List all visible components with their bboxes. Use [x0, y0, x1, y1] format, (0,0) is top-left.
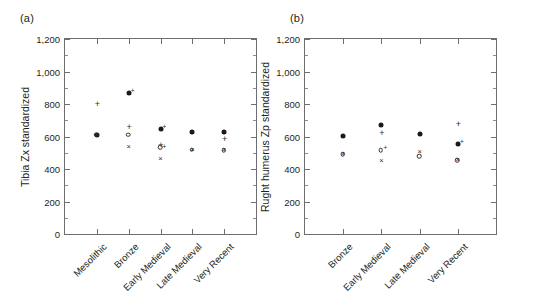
y-axis-tick — [305, 169, 310, 170]
x-axis-tick — [381, 39, 382, 44]
y-axis-minor-tick — [305, 153, 308, 154]
y-axis-tick-label: 0 — [55, 229, 60, 240]
y-axis-minor-tick — [253, 120, 256, 121]
x-axis-tick — [343, 39, 344, 44]
x-axis-tick-label: Bronze — [326, 241, 355, 270]
y-axis-tick — [65, 72, 70, 73]
y-axis-tick — [251, 169, 256, 170]
y-axis-tick-label: 600 — [44, 131, 60, 142]
y-axis-tick-label: 1,000 — [276, 66, 300, 77]
y-axis-tick — [491, 169, 496, 170]
y-axis-minor-tick — [305, 218, 308, 219]
y-axis-tick — [305, 72, 310, 73]
y-axis-tick — [305, 104, 310, 105]
y-axis-minor-tick — [305, 88, 308, 89]
data-point-open-circle — [126, 133, 131, 138]
data-point-plus: + — [383, 145, 387, 152]
x-axis-tick — [129, 39, 130, 44]
y-axis-tick — [491, 72, 496, 73]
data-point-plus: + — [460, 139, 464, 146]
x-axis-tick — [343, 229, 344, 234]
panel-a-label: (a) — [20, 12, 34, 24]
y-axis-tick-label: 600 — [284, 131, 300, 142]
data-point-plus: + — [163, 124, 167, 131]
y-axis-tick-label: 1,000 — [36, 66, 60, 77]
data-point-plus: + — [127, 122, 132, 131]
data-point-plus: + — [163, 144, 167, 151]
data-point-open-circle — [158, 145, 163, 150]
x-axis-tick — [161, 229, 162, 234]
y-axis-minor-tick — [65, 153, 68, 154]
y-axis-tick — [251, 137, 256, 138]
y-axis-tick — [65, 104, 70, 105]
y-axis-minor-tick — [253, 88, 256, 89]
panel-b-label: (b) — [290, 12, 304, 24]
x-axis-tick — [97, 229, 98, 234]
data-point-plus: + — [95, 100, 100, 109]
y-axis-tick-label: 800 — [44, 99, 60, 110]
x-axis-tick — [458, 39, 459, 44]
x-axis-tick — [129, 229, 130, 234]
data-point-cross: × — [158, 156, 162, 164]
x-axis-tick-label: Mesolithic — [71, 241, 109, 279]
y-axis-tick-label: 200 — [44, 196, 60, 207]
x-axis-tick — [192, 229, 193, 234]
y-axis-minor-tick — [253, 55, 256, 56]
y-axis-minor-tick — [493, 88, 496, 89]
y-axis-tick-label: 400 — [284, 164, 300, 175]
data-point-plus: + — [456, 119, 461, 128]
y-axis-minor-tick — [493, 55, 496, 56]
y-axis-minor-tick — [253, 218, 256, 219]
y-axis-tick — [251, 202, 256, 203]
y-axis-minor-tick — [493, 218, 496, 219]
data-point-open-circle — [379, 148, 384, 153]
y-axis-tick-label: 400 — [44, 164, 60, 175]
y-axis-minor-tick — [305, 55, 308, 56]
y-axis-minor-tick — [493, 120, 496, 121]
y-axis-tick — [251, 234, 256, 235]
x-axis-tick — [420, 39, 421, 44]
data-point-filled-circle — [190, 130, 195, 135]
y-axis-tick — [491, 234, 496, 235]
data-point-filled-circle — [417, 132, 422, 137]
y-axis-tick-label: 200 — [284, 196, 300, 207]
y-axis-minor-tick — [305, 120, 308, 121]
panel-a: (a) Tibia Zx standardized 02004006008001… — [0, 0, 270, 308]
data-point-plus: + — [222, 134, 227, 143]
x-axis-tick — [458, 229, 459, 234]
y-axis-tick-label: 1,200 — [36, 34, 60, 45]
x-axis-tick — [161, 39, 162, 44]
panel-a-plot-area: Tibia Zx standardized 02004006008001,000… — [64, 38, 257, 235]
data-point-cross: × — [126, 143, 130, 151]
y-axis-tick — [491, 137, 496, 138]
data-point-plus: + — [379, 129, 384, 138]
y-axis-minor-tick — [65, 185, 68, 186]
y-axis-tick — [491, 104, 496, 105]
y-axis-minor-tick — [493, 185, 496, 186]
x-axis-tick — [420, 229, 421, 234]
y-axis-tick-label: 1,200 — [276, 34, 300, 45]
y-axis-minor-tick — [65, 218, 68, 219]
y-axis-tick — [305, 202, 310, 203]
y-axis-minor-tick — [493, 153, 496, 154]
x-axis-tick — [192, 39, 193, 44]
x-axis-tick-label: Bronze — [111, 241, 140, 270]
x-axis-tick — [224, 229, 225, 234]
figure-scatter-panels: (a) Tibia Zx standardized 02004006008001… — [0, 0, 537, 308]
y-axis-tick-label: 0 — [295, 229, 300, 240]
data-point-cross: × — [190, 146, 194, 154]
y-axis-tick — [65, 39, 70, 40]
y-axis-tick — [65, 137, 70, 138]
data-point-cross: × — [222, 147, 226, 155]
x-axis-tick — [381, 229, 382, 234]
y-axis-minor-tick — [253, 153, 256, 154]
y-axis-minor-tick — [65, 120, 68, 121]
y-axis-tick — [305, 234, 310, 235]
x-axis-tick-label: Very Recent — [425, 241, 469, 285]
y-axis-tick — [491, 202, 496, 203]
x-axis-tick — [97, 39, 98, 44]
data-point-cross: × — [95, 131, 99, 139]
y-axis-tick — [65, 169, 70, 170]
data-point-plus: + — [131, 88, 135, 95]
y-axis-minor-tick — [253, 185, 256, 186]
